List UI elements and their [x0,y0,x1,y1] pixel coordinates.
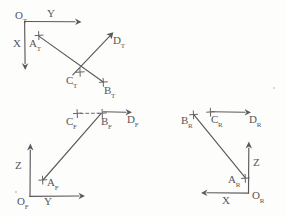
front-view-point-c-label: CF [66,116,78,130]
top-view-x-axis-label: X [13,38,21,49]
top-view-origin-label: OT [15,10,28,24]
front-view-origin-label: OF [17,196,29,210]
top-view-x-axis [22,21,29,70]
top-view-point-d-label: DT [113,35,126,49]
drawing-sheet: OT Y X AT CT BT DT OF Y Z AF CF BF DF OR… [0,0,285,217]
right-view-point-b-label: BR [181,115,193,129]
front-view-y-axis-label: Y [44,196,52,207]
top-view-point-c-label: CT [66,75,78,89]
right-view-x-axis-label: X [222,195,230,206]
sketch-canvas [0,0,285,217]
top-view-point-b-label: BT [104,85,116,99]
right-view-point-a-label: AR [228,174,241,188]
front-view-z-axis [27,143,34,196]
front-view-group [27,109,132,199]
right-view-z-axis-label: Z [253,157,260,168]
front-view-z-axis-label: Z [15,160,22,171]
right-view-point-d-label: DR [249,114,262,128]
top-view-d-arrow [73,32,114,75]
paper-speck [273,87,275,89]
front-view-point-a-label: AF [47,177,59,191]
top-view-point-a-label: AT [29,38,42,52]
top-view-y-axis-label: Y [47,8,55,19]
right-view-point-c-label: CR [211,114,223,128]
paper-speck [15,191,17,193]
front-view-y-axis [30,193,85,199]
right-view-origin-label: OR [252,190,265,204]
right-view-z-axis [246,141,253,193]
front-view-point-d-label: DF [127,114,139,128]
front-view-point-b-label: BF [101,116,113,130]
top-view-y-axis [25,19,82,25]
